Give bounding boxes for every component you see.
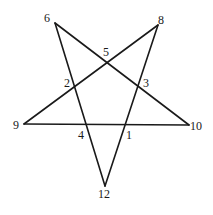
edge-6-10 bbox=[55, 23, 189, 125]
edge-9-10 bbox=[24, 124, 189, 125]
pentagram-diagram: 689101252341 bbox=[0, 0, 213, 215]
vertex-label-8: 8 bbox=[158, 13, 164, 27]
diagram-svg: 689101252341 bbox=[0, 0, 213, 215]
intersection-label-2: 2 bbox=[64, 76, 70, 90]
intersection-label-3: 3 bbox=[143, 76, 149, 90]
labels-group: 689101252341 bbox=[13, 11, 202, 201]
intersection-label-5: 5 bbox=[103, 45, 109, 59]
intersection-label-1: 1 bbox=[126, 128, 132, 142]
vertex-label-9: 9 bbox=[13, 118, 19, 132]
vertex-label-10: 10 bbox=[190, 119, 202, 133]
vertex-label-6: 6 bbox=[44, 11, 50, 25]
intersection-label-4: 4 bbox=[78, 128, 84, 142]
edge-6-12 bbox=[55, 23, 105, 186]
edge-8-12 bbox=[105, 25, 158, 186]
vertex-label-12: 12 bbox=[98, 187, 110, 201]
edge-8-9 bbox=[24, 25, 158, 124]
